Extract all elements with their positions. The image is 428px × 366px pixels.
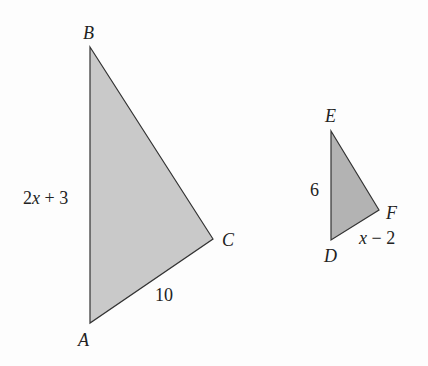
triangle-abc: [90, 47, 213, 323]
side-label-de: 6: [310, 181, 319, 199]
vertex-label-b: B: [83, 24, 94, 42]
vertex-label-c: C: [222, 231, 234, 249]
diagram-canvas: B C A 2x + 3 10 E F D 6 x − 2: [0, 0, 428, 366]
vertex-label-e: E: [325, 107, 336, 125]
side-label-ac: 10: [155, 286, 173, 304]
side-label-ab: 2x + 3: [23, 189, 68, 207]
vertex-label-a: A: [78, 331, 89, 349]
vertex-label-f: F: [386, 204, 397, 222]
triangles-svg: [0, 0, 428, 366]
side-label-df: x − 2: [359, 229, 395, 247]
triangle-def: [331, 131, 379, 240]
vertex-label-d: D: [324, 247, 337, 265]
